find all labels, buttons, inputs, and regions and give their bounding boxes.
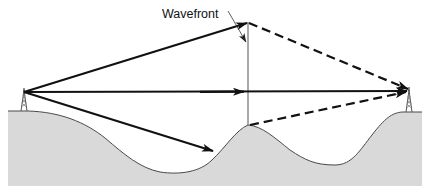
- wavefront-leader-line: [228, 11, 246, 42]
- ground-fill: [8, 111, 422, 186]
- upper-ray-dashed: [249, 23, 408, 89]
- ground-reflected-ray-dashed: [250, 92, 406, 125]
- propagation-diagram: Wavefront: [0, 0, 432, 194]
- terrain: [8, 111, 422, 186]
- upper-ray-solid: [24, 23, 247, 92]
- wavefront-label: Wavefront: [162, 7, 219, 21]
